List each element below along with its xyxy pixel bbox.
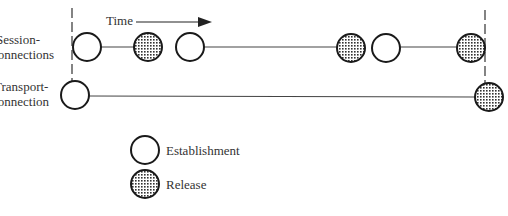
session-establishment-circle [73,33,101,61]
session-release-circle [337,34,365,62]
session-establishment-circle [176,33,204,61]
session-establishment-circle [372,34,400,62]
session-release-circle [457,34,485,62]
legend-release-icon [131,170,159,198]
transport-row-label-line1: Transport- [0,79,48,94]
connection-timeline-diagram [0,0,508,216]
transport-establishment-circle [61,81,89,109]
session-row-label-line2: connections [0,47,54,62]
transport-release-circle [475,83,503,111]
legend-establishment-label: Establishment [166,143,240,158]
legend-establishment-icon [131,136,159,164]
transport-link [89,96,475,97]
session-row-label-line1: Session- [0,32,40,47]
time-label: Time [106,13,133,28]
time-arrow-head [198,17,212,27]
session-release-circle [134,33,162,61]
transport-row-label-line2: connection [0,94,49,109]
legend-release-label: Release [166,177,206,192]
